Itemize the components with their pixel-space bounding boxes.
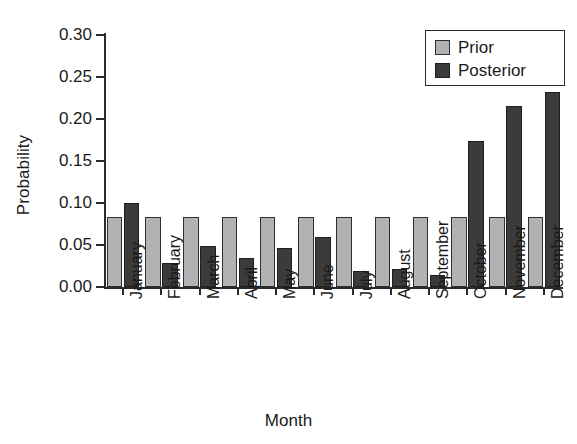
bar-prior-may [260, 217, 276, 287]
y-tick-label: 0.30 [32, 26, 92, 43]
x-axis-title: Month [0, 411, 577, 431]
x-tick-mark [543, 287, 545, 295]
x-tick-mark [466, 287, 468, 295]
x-tick-label: December [550, 225, 566, 299]
bar-group [295, 35, 333, 287]
bar-group [334, 35, 372, 287]
bar-prior-november [489, 217, 505, 287]
legend-label-prior: Prior [458, 39, 494, 56]
bar-group [219, 35, 257, 287]
x-tick-label: February [167, 235, 183, 299]
x-tick-mark [313, 287, 315, 295]
bar-prior-march [183, 217, 199, 287]
bar-chart-figure: Probability 0.000.050.100.150.200.250.30… [0, 0, 577, 444]
x-tick-label: October [473, 242, 489, 299]
bar-prior-april [222, 217, 238, 287]
bar-prior-september [413, 217, 429, 287]
prior-swatch-icon [435, 40, 450, 55]
y-tick-label: 0.25 [32, 68, 92, 85]
x-tick-label: May [282, 269, 298, 299]
bar-prior-january [107, 217, 123, 287]
x-tick-mark [122, 287, 124, 295]
legend-item-posterior: Posterior [435, 59, 556, 82]
y-axis-title-text: Probability [14, 110, 34, 240]
x-tick-mark [160, 287, 162, 295]
x-tick-label: November [512, 225, 528, 299]
bar-group [257, 35, 295, 287]
x-tick-label: August [397, 249, 413, 299]
x-tick-mark [505, 287, 507, 295]
x-tick-mark [237, 287, 239, 295]
x-tick-label: March [206, 255, 222, 299]
y-tick-label: 0.20 [32, 110, 92, 127]
x-tick-label: September [435, 221, 451, 299]
y-tick-label: 0.15 [32, 152, 92, 169]
bar-prior-december [528, 217, 544, 287]
bar-prior-june [298, 217, 314, 287]
bar-prior-august [375, 217, 391, 287]
x-tick-mark [390, 287, 392, 295]
x-tick-mark [199, 287, 201, 295]
x-tick-label: April [244, 267, 260, 299]
bar-group [181, 35, 219, 287]
bar-prior-february [145, 217, 161, 287]
bar-prior-july [336, 217, 352, 287]
posterior-swatch-icon [435, 63, 450, 78]
x-tick-label: June [320, 264, 336, 299]
x-tick-mark [352, 287, 354, 295]
legend-label-posterior: Posterior [458, 62, 526, 79]
x-tick-mark [428, 287, 430, 295]
y-tick-label: 0.05 [32, 236, 92, 253]
y-tick-label: 0.10 [32, 194, 92, 211]
x-tick-label: January [129, 242, 145, 299]
bar-prior-october [451, 217, 467, 287]
y-axis-title: Probability [14, 0, 40, 110]
y-tick-label: 0.00 [32, 278, 92, 295]
legend-item-prior: Prior [435, 36, 556, 59]
x-tick-mark [275, 287, 277, 295]
x-tick-label: July [359, 271, 375, 299]
legend: Prior Posterior [425, 30, 565, 86]
